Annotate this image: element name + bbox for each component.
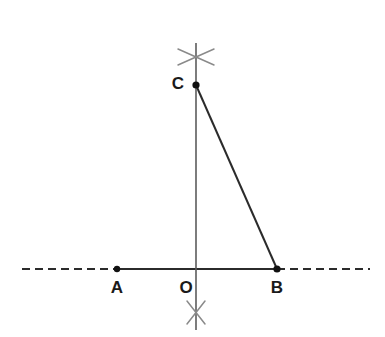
point-dot-b — [273, 265, 280, 272]
point-label-o: O — [179, 278, 192, 297]
point-dot-a — [114, 266, 120, 272]
point-label-a: A — [111, 278, 123, 297]
point-dot-c — [192, 81, 199, 88]
hypotenuse-line-cb — [196, 85, 277, 269]
geometry-figure: A O B C — [0, 0, 385, 337]
point-label-c: C — [172, 74, 184, 93]
geometry-canvas: A O B C — [0, 0, 385, 337]
point-label-b: B — [271, 278, 283, 297]
